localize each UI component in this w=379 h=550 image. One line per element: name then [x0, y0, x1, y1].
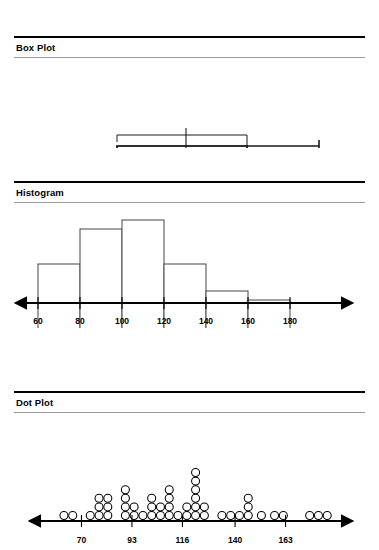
dot-plot-axis — [30, 516, 352, 526]
histogram-axis-arrow-right — [342, 298, 352, 308]
dot-plot-dot — [200, 503, 208, 511]
dot-plot-dot — [121, 512, 129, 520]
dot-plot-dot — [244, 503, 252, 511]
dot-plot-dot — [165, 512, 173, 520]
dot-plot-dot — [121, 503, 129, 511]
dot-plot-dot — [257, 512, 265, 520]
dot-plot-dot — [121, 486, 129, 494]
dot-plot-dot — [218, 512, 226, 520]
dot-plot-dot — [86, 512, 94, 520]
dot-plot-dot — [192, 469, 200, 477]
dot-plot-dot — [279, 512, 287, 520]
dot-plot-dot — [60, 512, 68, 520]
dot-plot-svg: 7093116140163 — [0, 413, 379, 543]
dot-plot-dot — [314, 512, 322, 520]
box-plot-plot-area — [0, 58, 379, 148]
histogram-tick-label: 160 — [241, 316, 255, 326]
dot-plot-title: Dot Plot — [14, 393, 365, 412]
dot-plot-dot — [192, 503, 200, 511]
dot-plot-dot — [121, 494, 129, 502]
dot-plot-dot — [165, 486, 173, 494]
dot-plot-dot — [200, 512, 208, 520]
box-plot-title: Box Plot — [14, 38, 365, 57]
panel-box-plot: Box Plot — [0, 36, 379, 148]
dot-plot-dot — [130, 503, 138, 511]
dot-plot-dot — [192, 486, 200, 494]
dot-plot-dot — [69, 512, 77, 520]
dot-plot-dot — [104, 512, 112, 520]
dot-plot-dot — [148, 503, 156, 511]
histogram-tick-label: 60 — [33, 316, 43, 326]
dot-plot-dot — [130, 512, 138, 520]
dot-plot-tick-label: 163 — [278, 535, 292, 543]
statistics-report-page: Box Plot — [0, 0, 379, 550]
dot-plot-dot — [104, 494, 112, 502]
dot-plot-axis-arrow-right — [342, 516, 352, 526]
panel-histogram: Histogram — [0, 181, 379, 328]
dot-plot-dot — [244, 494, 252, 502]
dot-plot-axis-arrow-left — [30, 516, 40, 526]
box-plot-header: Box Plot — [14, 36, 365, 58]
histogram-title: Histogram — [14, 183, 365, 202]
histogram-svg: 60 80 100 120 140 160 180 — [0, 203, 379, 328]
dot-plot-dot — [95, 503, 103, 511]
dot-plot-dot — [95, 512, 103, 520]
histogram-tick-label: 100 — [115, 316, 129, 326]
dot-plot-dot — [192, 494, 200, 502]
dot-plot-dots — [60, 469, 331, 520]
histogram-tick-label: 80 — [75, 316, 85, 326]
box-plot-confidence-bracket — [117, 135, 247, 146]
dot-plot-plot-area: 7093116140163 — [0, 413, 379, 543]
dot-plot-dot — [323, 512, 331, 520]
dot-plot-dot — [174, 512, 182, 520]
dot-plot-dot — [183, 503, 191, 511]
histogram-bars — [38, 220, 290, 328]
dot-plot-tick-labels: 7093116140163 — [77, 535, 293, 543]
dot-plot-dot — [104, 503, 112, 511]
panel-dot-plot: Dot Plot 7093116140163 — [0, 391, 379, 543]
dot-plot-dot — [306, 512, 314, 520]
dot-plot-dot — [227, 512, 235, 520]
dot-plot-dot — [139, 512, 147, 520]
histogram-bar — [80, 229, 122, 328]
histogram-tick-label: 180 — [283, 316, 297, 326]
box-plot-iqr-box — [117, 146, 247, 148]
histogram-bar — [38, 264, 80, 328]
dot-plot-dot — [192, 477, 200, 485]
dot-plot-tick-label: 116 — [176, 535, 190, 543]
dot-plot-dot — [148, 512, 156, 520]
dot-plot-tick-label: 70 — [77, 535, 87, 543]
dot-plot-dot — [95, 494, 103, 502]
dot-plot-dot — [148, 494, 156, 502]
histogram-plot-area: 60 80 100 120 140 160 180 — [0, 203, 379, 328]
dot-plot-dot — [165, 503, 173, 511]
dot-plot-tick-label: 93 — [127, 535, 137, 543]
histogram-bar — [122, 220, 164, 328]
histogram-tick-label: 120 — [157, 316, 171, 326]
histogram-tick-label: 140 — [199, 316, 213, 326]
dot-plot-dot — [271, 512, 279, 520]
box-plot-svg — [0, 58, 379, 148]
histogram-axis-arrow-left — [16, 298, 26, 308]
dot-plot-header: Dot Plot — [14, 391, 365, 413]
dot-plot-dot — [165, 494, 173, 502]
dot-plot-tick-label: 140 — [228, 535, 242, 543]
dot-plot-dot — [156, 503, 164, 511]
dot-plot-dot — [183, 512, 191, 520]
dot-plot-dot — [192, 512, 200, 520]
dot-plot-dot — [235, 512, 243, 520]
histogram-header: Histogram — [14, 181, 365, 203]
dot-plot-dot — [156, 512, 164, 520]
dot-plot-dot — [244, 512, 252, 520]
